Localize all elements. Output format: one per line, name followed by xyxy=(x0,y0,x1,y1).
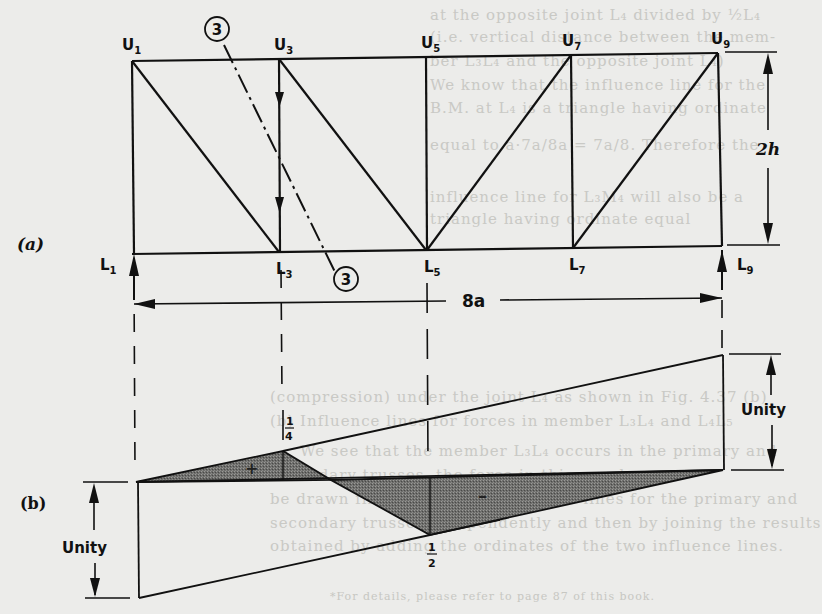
member-l5-u7 xyxy=(427,55,571,250)
svg-text:4: 4 xyxy=(285,430,293,443)
dimension-arrow-down-icon xyxy=(763,223,773,244)
span-arrow-right-icon xyxy=(700,293,722,303)
height-label: 2h xyxy=(755,139,780,159)
unity-label-right: Unity xyxy=(741,401,786,419)
reaction-arrow-left-icon xyxy=(129,254,139,276)
negative-region xyxy=(331,470,723,535)
member-u5-l5 xyxy=(426,57,427,250)
joint-label-u3: U3 xyxy=(274,36,293,56)
lower-joint-labels: L1 L3 L5 L7 L9 xyxy=(100,256,754,280)
negative-sign: – xyxy=(478,485,487,506)
section-marker-bottom-label: 3 xyxy=(341,271,351,289)
member-u9-l9 xyxy=(718,53,722,246)
svg-text:2: 2 xyxy=(428,557,436,570)
panel-b-label: (b) xyxy=(20,494,46,513)
upper-sloping-line xyxy=(283,355,723,451)
member-l7-u9 xyxy=(573,53,718,248)
unity-arrow-down-icon xyxy=(90,578,100,597)
member-u3-l5 xyxy=(279,59,426,250)
unity-label-left: Unity xyxy=(62,539,107,557)
member-u3-l3 xyxy=(279,59,280,252)
positive-region xyxy=(136,451,331,482)
joint-label-l1: L1 xyxy=(100,256,117,276)
member-u1-l1 xyxy=(132,61,134,254)
joint-label-l7: L7 xyxy=(569,256,586,276)
joint-label-l3: L3 xyxy=(276,260,293,280)
joint-label-l9: L9 xyxy=(737,256,754,276)
unity-arrow-down-icon xyxy=(767,449,777,469)
member-u1-l3 xyxy=(132,61,279,252)
ordinate-quarter-label: 1 4 xyxy=(285,415,294,443)
unity-arrow-up-icon xyxy=(89,483,99,503)
lower-sloping-line xyxy=(139,535,430,598)
unity-dimension-left: Unity xyxy=(62,482,130,598)
left-end-vertical xyxy=(138,482,139,598)
unity-dimension-right: Unity xyxy=(729,354,786,470)
reaction-arrow-right-icon xyxy=(717,250,727,272)
arrow-down-icon xyxy=(275,92,284,107)
positive-sign: + xyxy=(245,459,258,478)
arrow-down-icon xyxy=(275,197,284,213)
span-label: 8a xyxy=(462,291,485,311)
span-arrow-left-icon xyxy=(134,299,155,309)
joint-label-u5: U5 xyxy=(421,34,440,54)
dimension-arrow-up-icon xyxy=(763,53,773,74)
ordinate-half-label: 1 2 xyxy=(427,541,437,570)
unity-arrow-up-icon xyxy=(766,355,776,375)
svg-text:1: 1 xyxy=(286,415,294,428)
panel-a-label: (a) xyxy=(17,234,44,254)
svg-text:1: 1 xyxy=(428,541,436,554)
joint-label-u1: U1 xyxy=(122,36,141,56)
section-marker-top-label: 3 xyxy=(212,21,222,39)
member-u7-l7 xyxy=(571,55,573,248)
joint-label-u7: U7 xyxy=(562,32,581,52)
span-dimension: 8a xyxy=(134,291,722,311)
height-dimension: 2h xyxy=(725,52,780,245)
joint-label-l5: L5 xyxy=(424,258,441,278)
projection-lines xyxy=(134,270,722,470)
truss-diagram xyxy=(132,53,722,254)
right-end-vertical xyxy=(723,355,724,470)
influence-line-diagram: + – 1 4 1 2 Unity xyxy=(62,354,786,598)
joint-label-u9: U9 xyxy=(711,30,730,50)
